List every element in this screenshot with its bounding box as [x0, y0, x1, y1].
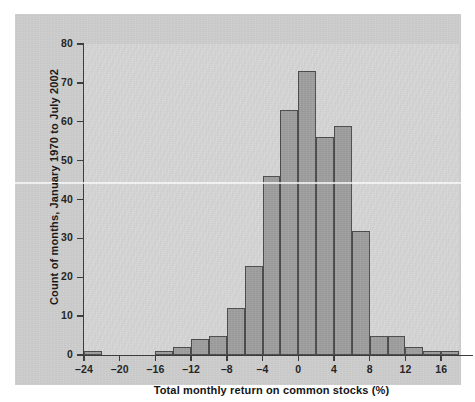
x-axis-title: Total monthly return on common stocks (%…	[84, 384, 459, 396]
x-tick-label: –20	[100, 363, 140, 375]
histogram-bar	[423, 351, 441, 355]
y-tick	[77, 160, 83, 161]
histogram-bar	[334, 126, 352, 355]
histogram-bar	[405, 347, 423, 355]
y-tick	[77, 315, 83, 316]
x-tick-label: –12	[171, 363, 211, 375]
histogram-bar	[209, 336, 227, 355]
x-tick	[155, 355, 156, 361]
x-tick	[405, 355, 406, 361]
x-tick	[298, 355, 299, 361]
y-axis-title: Count of months, January 1970 to July 20…	[48, 37, 60, 337]
x-tick-label: –8	[207, 363, 247, 375]
x-tick-label: 8	[350, 363, 390, 375]
x-tick-label: –16	[135, 363, 175, 375]
x-tick-label: 0	[278, 363, 318, 375]
figure-panel: 01020304050607080 –24–20–16–12–8–4048121…	[15, 14, 461, 385]
x-tick	[262, 355, 263, 361]
x-tick	[226, 355, 227, 361]
histogram-bar	[280, 110, 298, 355]
scan-artifact-band	[15, 182, 475, 184]
histogram-bar	[245, 266, 263, 355]
histogram-bar	[191, 339, 209, 355]
x-tick-label: 12	[385, 363, 425, 375]
histogram-bar	[298, 71, 316, 355]
histogram-bar	[227, 308, 245, 355]
histogram-bar	[370, 336, 388, 355]
y-tick	[77, 43, 83, 44]
chart-figure: 01020304050607080 –24–20–16–12–8–4048121…	[0, 0, 475, 402]
histogram-bar	[263, 176, 281, 355]
x-tick	[333, 355, 334, 361]
histogram-bar	[173, 347, 191, 355]
x-tick-label: 16	[421, 363, 461, 375]
x-tick	[369, 355, 370, 361]
y-tick	[77, 199, 83, 200]
histogram-bar	[155, 351, 173, 355]
histogram-bar	[388, 336, 406, 355]
y-tick	[77, 354, 83, 355]
histogram-bar	[84, 351, 102, 355]
y-tick	[77, 121, 83, 122]
x-axis-line	[83, 355, 473, 356]
x-tick	[119, 355, 120, 361]
histogram-bar	[441, 351, 459, 355]
y-tick-label: 0	[45, 348, 73, 360]
x-tick-label: –24	[64, 363, 104, 375]
y-tick	[77, 277, 83, 278]
x-tick-label: –4	[243, 363, 283, 375]
histogram-bars	[84, 44, 459, 355]
x-tick	[83, 355, 84, 361]
histogram-bar	[316, 137, 334, 355]
histogram-bar	[352, 231, 370, 355]
x-tick	[440, 355, 441, 361]
x-tick-label: 4	[314, 363, 354, 375]
y-tick	[77, 238, 83, 239]
x-tick	[190, 355, 191, 361]
y-tick	[77, 82, 83, 83]
